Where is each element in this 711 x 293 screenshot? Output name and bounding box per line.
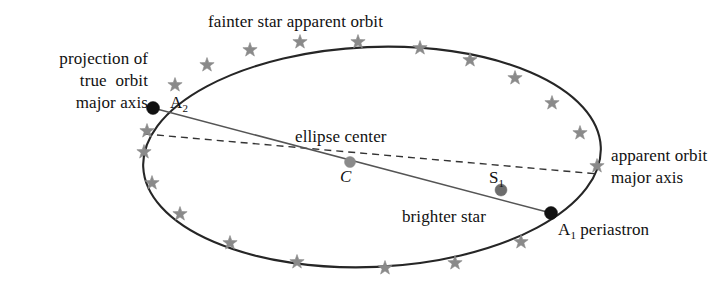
label-a1-periastron: A1 periastron	[558, 219, 649, 246]
fainter-star-position-marker	[514, 235, 528, 249]
fainter-star-position-marker	[173, 207, 187, 221]
a2-subscript: 2	[182, 102, 188, 114]
fainter-star-position-marker	[293, 35, 307, 49]
fainter-star-position-marker	[508, 71, 522, 85]
fainter-star-position-marker	[413, 41, 427, 55]
a2-symbol: A	[170, 93, 182, 112]
point-a2-apoastron-projection	[147, 102, 160, 115]
s1-symbol: S	[489, 168, 499, 187]
point-a1-periastron	[545, 207, 558, 220]
fainter-star-position-marker	[243, 43, 257, 57]
a1-symbol: A	[558, 220, 570, 239]
fainter-star-position-marker	[351, 35, 365, 49]
periastron-word: periastron	[576, 220, 649, 239]
fainter-star-position-marker	[290, 255, 304, 269]
label-s1: S1	[489, 167, 504, 194]
label-brighter-star: brighter star	[402, 206, 486, 228]
fainter-star-position-marker	[168, 78, 182, 92]
apparent-orbit-ellipse	[138, 37, 605, 277]
label-ellipse-center: ellipse center	[295, 126, 387, 148]
label-fainter-star-apparent-orbit: fainter star apparent orbit	[208, 11, 383, 33]
figure-canvas: projection of true orbit major axis fain…	[0, 0, 711, 293]
label-apparent-orbit-major-axis: apparent orbit major axis	[611, 145, 711, 189]
fainter-star-position-marker	[545, 96, 559, 110]
fainter-star-position-marker	[200, 58, 214, 72]
fainter-star-position-marker	[573, 126, 587, 140]
fainter-star-position-marker	[378, 261, 392, 275]
label-a2: A2	[170, 92, 188, 119]
s1-subscript: 1	[499, 177, 505, 189]
label-projection-of-true-orbit-major-axis: projection of true orbit major axis	[6, 48, 148, 114]
label-center-point-c: C	[340, 166, 351, 188]
